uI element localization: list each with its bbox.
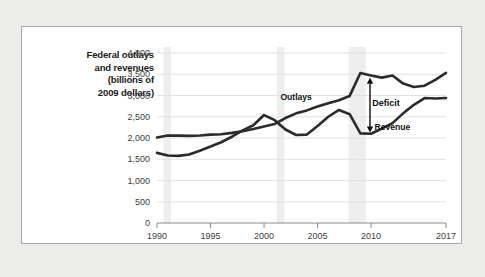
x-axis-tick-label: 2010 xyxy=(361,231,381,241)
annotation-deficit: Deficit xyxy=(372,98,400,108)
x-axis-tick-label: 1995 xyxy=(201,231,221,241)
y-axis-tick-label: 3,500 xyxy=(127,69,150,79)
y-axis-tick-label: 1,500 xyxy=(127,154,150,164)
recession-band xyxy=(277,47,284,223)
data-series xyxy=(157,73,446,156)
annotation-revenue: Revenue xyxy=(375,122,411,132)
figure-frame: Federal outlays and revenues (billions o… xyxy=(21,26,462,244)
x-axis-tick-label: 2005 xyxy=(308,231,328,241)
x-axis-tick-labels: 199019952000200520102017 xyxy=(147,231,456,241)
y-axis-tick-labels: 05001,0001,5002,0002,5003,0003,5004,000 xyxy=(127,48,150,228)
deficit-arrow-head-up xyxy=(367,78,373,84)
y-axis-tick-label: 3,000 xyxy=(127,91,150,101)
x-axis-tick-label: 1990 xyxy=(147,231,167,241)
annotation-outlays: Outlays xyxy=(280,92,312,102)
x-axis-tick-label: 2017 xyxy=(436,231,456,241)
x-axis-tick-label: 2000 xyxy=(254,231,274,241)
chart-annotations: OutlaysRevenueDeficit xyxy=(280,78,410,133)
y-axis-tick-label: 500 xyxy=(135,197,150,207)
y-axis-tick-label: 4,000 xyxy=(127,48,150,58)
chart-container: Federal outlays and revenues (billions o… xyxy=(22,27,461,243)
y-axis-tick-label: 2,000 xyxy=(127,133,150,143)
deficit-arrow-head-down xyxy=(367,126,373,132)
line-chart-plot: 05001,0001,5002,0002,5003,0003,5004,000 … xyxy=(22,27,461,243)
y-axis-tick-label: 1,000 xyxy=(127,176,150,186)
y-axis-tick-label: 0 xyxy=(145,218,150,228)
y-axis-tick-label: 2,500 xyxy=(127,112,150,122)
x-axis-ticks xyxy=(157,223,446,228)
